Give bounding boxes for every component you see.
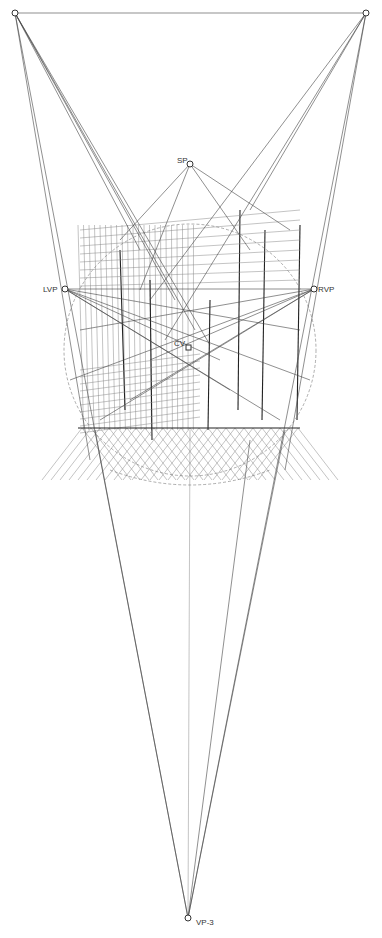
converging-line (188, 440, 250, 918)
perspective-diagram: SP LVP RVP CV VP-3 (0, 0, 382, 938)
grid-vertical (100, 225, 105, 430)
box-edge (297, 225, 300, 420)
floor-grid-line (87, 428, 127, 480)
grid-vertical (111, 225, 115, 430)
lvp-label: LVP (43, 285, 58, 294)
floor-grid-line (280, 428, 320, 480)
converging-line (95, 430, 188, 918)
grid-vertical (172, 225, 173, 430)
grid-vertical (166, 225, 167, 430)
wall-grid-line (80, 210, 300, 230)
point-vp3: VP-3 (185, 915, 214, 927)
wall-grid-line (80, 260, 300, 270)
construction-lines (15, 13, 366, 918)
converging-line (165, 13, 366, 340)
floor-grid-line (42, 428, 82, 480)
vp3-label: VP-3 (196, 918, 214, 927)
box-edge (262, 230, 265, 420)
floor-grid-line (80, 417, 200, 433)
grid-vertical (117, 225, 121, 430)
rvp-ray (80, 289, 314, 330)
converging-line (15, 13, 140, 250)
floor-grid-line (80, 403, 200, 419)
sp-label: SP (177, 156, 188, 165)
wall-grid-line (80, 280, 300, 286)
point-rvp: RVP (311, 285, 334, 294)
third-vanishing-point-marker (185, 915, 191, 921)
wall-grid-line (80, 220, 300, 238)
grid-vertical (139, 225, 142, 430)
floor-grid-line (80, 410, 200, 426)
floor-grid-line (80, 389, 200, 405)
grid-vertical (155, 225, 157, 430)
point-lvp: LVP (43, 285, 68, 294)
floor-grid-line (60, 428, 100, 480)
point-top-left (12, 10, 18, 16)
grid-vertical (84, 225, 89, 430)
floor-grid-line (262, 428, 302, 480)
grid-vertical (78, 225, 84, 430)
grid-vertical (161, 225, 162, 430)
left-vanishing-point-marker (62, 286, 68, 292)
floor-grid-line (80, 396, 200, 412)
converging-line (15, 13, 195, 330)
floor-grid-line (298, 428, 338, 480)
wall-grid-line (80, 230, 300, 246)
converging-line (188, 430, 285, 918)
wall-grid-line (80, 270, 300, 278)
converging-line (188, 430, 190, 918)
box-edge (120, 250, 125, 410)
vanishing-point-marker (12, 10, 18, 16)
rvp-ray (130, 289, 314, 400)
box-edge (208, 300, 210, 430)
vanishing-point-marker (363, 10, 369, 16)
lvp-ray (65, 289, 220, 360)
rvp-label: RVP (318, 285, 334, 294)
floor-grid-line (253, 428, 293, 480)
floor-grid-line (51, 428, 91, 480)
cv-label: CV (174, 339, 186, 348)
point-sp: SP (177, 156, 193, 167)
right-vanishing-point-marker (311, 286, 317, 292)
floor-grid-line (289, 428, 329, 480)
station-point-marker (187, 161, 193, 167)
point-top-right (363, 10, 369, 16)
center-of-vision-marker (186, 345, 191, 350)
grid-vertical (144, 225, 146, 430)
box-edge (238, 210, 240, 410)
